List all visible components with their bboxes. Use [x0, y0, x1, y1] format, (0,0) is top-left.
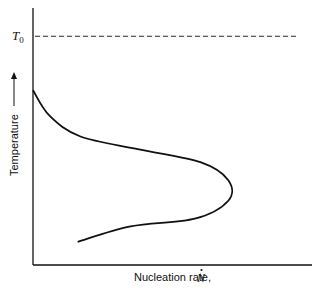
y-axis-label-group: Temperature — [8, 72, 20, 176]
nucleation-diagram: T0 Temperature Nucleation rate, N — [0, 0, 323, 292]
y-axis-arrow-icon — [11, 72, 17, 79]
nucleation-rate-curve — [33, 90, 232, 242]
x-axis-symbol: N — [196, 271, 206, 285]
y-axis-label: Temperature — [8, 114, 20, 176]
t0-label: T0 — [12, 28, 24, 45]
x-axis-symbol-dot — [200, 269, 202, 271]
